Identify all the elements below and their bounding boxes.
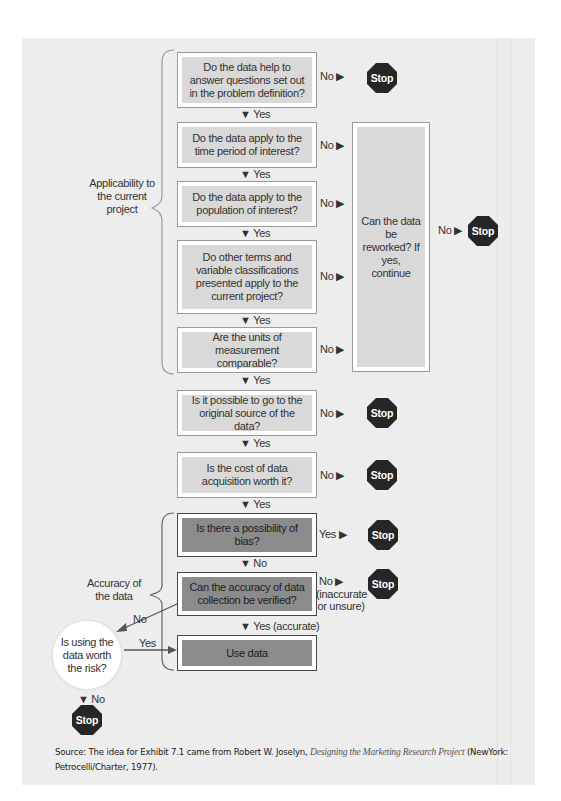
question-box-q7: Is the cost of data acquisition worth it…: [177, 452, 317, 498]
question-text: Are the units of measurement comparable?: [182, 332, 312, 368]
question-box-q8: Is there a possibility of bias?: [177, 513, 317, 557]
question-box-q9: Can the accuracy of data collection be v…: [177, 572, 317, 616]
no-branch-label: No ▶: [438, 224, 462, 237]
yes-branch-label: Yes ▶: [319, 528, 347, 541]
yes-branch-label: ▼ Yes: [240, 227, 270, 240]
stop-icon: Stop: [368, 520, 398, 550]
question-text: Do the data apply to the population of i…: [182, 186, 312, 222]
no-branch-detail: (inaccurate or unsure): [316, 588, 366, 612]
stop-icon: Stop: [468, 216, 498, 246]
stop-icon: Stop: [368, 569, 398, 599]
use-data-box: Use data: [177, 635, 317, 671]
source-title: Designing the Marketing Research Project: [310, 747, 464, 757]
question-box-q2: Do the data apply to the time period of …: [177, 122, 317, 168]
question-box-q3: Do the data apply to the population of i…: [177, 181, 317, 227]
stop-icon: Stop: [367, 398, 397, 428]
yes-branch-label: ▼ Yes: [240, 437, 270, 450]
yes-branch-label: ▼ Yes (accurate): [240, 620, 319, 633]
question-text: Do the data help to answer questions set…: [182, 57, 312, 103]
yes-branch-label: ▼ Yes: [240, 498, 270, 511]
question-box-q4: Do other terms and variable classificati…: [177, 240, 317, 314]
stop-icon: Stop: [367, 460, 397, 490]
source-prefix: Source: The idea for Exhibit 7.1 came fr…: [55, 747, 310, 757]
question-text: Do other terms and variable classificati…: [182, 245, 312, 309]
question-text: Is the cost of data acquisition worth it…: [182, 457, 312, 493]
no-branch-label: No ▶: [320, 343, 344, 356]
risk-text: Is using the data worth the risk?: [55, 636, 119, 675]
no-branch-label: ▼ No: [78, 693, 105, 706]
question-box-q6: Is it possible to go to the original sou…: [177, 390, 317, 436]
no-branch-label: No ▶: [320, 139, 344, 152]
no-branch-label: No ▶: [320, 407, 344, 420]
yes-branch-label: ▼ Yes: [240, 374, 270, 387]
question-text: Can the accuracy of data collection be v…: [182, 577, 312, 611]
stop-icon: Stop: [72, 705, 102, 735]
no-branch-label: No ▶: [320, 70, 344, 83]
use-data-text: Use data: [182, 640, 312, 666]
question-box-q5: Are the units of measurement comparable?: [177, 327, 317, 373]
group-label-accuracy: Accuracy of the data: [84, 577, 144, 603]
question-text: Do the data apply to the time period of …: [182, 127, 312, 163]
no-next-label: ▼ No: [240, 557, 267, 570]
rework-box: Can the data be reworked? If yes, contin…: [352, 122, 430, 372]
risk-decision-circle: Is using the data worth the risk?: [51, 619, 123, 691]
yes-branch-label: ▼ Yes: [240, 168, 270, 181]
stop-icon: Stop: [367, 63, 397, 93]
no-branch-label: No ▶: [320, 270, 344, 283]
question-text: Is it possible to go to the original sou…: [182, 395, 312, 431]
yes-branch-label: Yes: [139, 637, 156, 650]
no-branch-label: No ▶: [320, 197, 344, 210]
no-branch-label: No ▶: [319, 575, 343, 588]
question-text: Is there a possibility of bias?: [182, 518, 312, 552]
group-label-applicability: Applicability to the current project: [84, 177, 160, 216]
yes-branch-label: ▼ Yes: [240, 108, 270, 121]
no-branch-label: No ▶: [320, 469, 344, 482]
source-citation: Source: The idea for Exhibit 7.1 came fr…: [55, 745, 525, 775]
no-into-risk-label: No: [133, 613, 146, 626]
rework-text: Can the data be reworked? If yes, contin…: [357, 127, 425, 367]
question-box-q1: Do the data help to answer questions set…: [177, 52, 317, 108]
yes-branch-label: ▼ Yes: [240, 314, 270, 327]
